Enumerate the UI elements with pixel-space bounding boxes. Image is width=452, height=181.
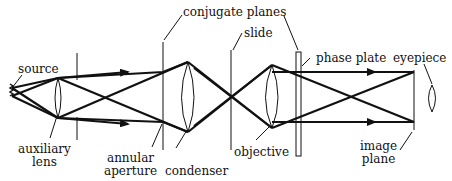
image-plane-label: image plane [360, 140, 397, 166]
image-plane-label-line2: plane [360, 153, 397, 166]
phase-plate-label: phase plate [316, 52, 386, 65]
eyepiece-lens [429, 85, 436, 112]
condenser-label: condenser [165, 165, 228, 178]
objective-lens [266, 65, 279, 128]
source-icon [10, 84, 13, 96]
phase-contrast-diagram: source auxiliary lens annular aperture c… [0, 0, 452, 181]
auxiliary-lens [55, 78, 61, 118]
slide-label: slide [244, 27, 273, 40]
auxiliary-lens-label-line2: lens [18, 156, 71, 169]
objective-label: objective [234, 146, 289, 159]
auxiliary-lens-label: auxiliary lens [18, 143, 71, 169]
annular-aperture-label: annular aperture [104, 152, 157, 178]
annular-aperture-label-line2: aperture [104, 165, 157, 178]
eyepiece-label: eyepiece [393, 52, 446, 65]
condenser-lens [182, 62, 195, 132]
conjugate-planes-label: conjugate planes [183, 6, 286, 19]
source-label: source [18, 63, 59, 76]
phase-plate [296, 52, 301, 156]
